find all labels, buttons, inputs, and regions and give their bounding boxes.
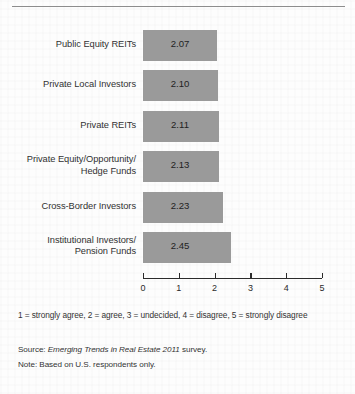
- category-label-line: Public Equity REITs: [8, 39, 136, 50]
- category-label: Cross-Border Investors: [8, 201, 136, 212]
- axis-tick-label: 2: [205, 283, 225, 293]
- source-suffix: survey.: [180, 345, 207, 354]
- category-label: Private Local Investors: [8, 79, 136, 90]
- chart-row: Cross-Border Investors2.23: [0, 192, 355, 223]
- bar-value-label: 2.13: [143, 159, 217, 170]
- category-label-line: Private REITs: [8, 120, 136, 131]
- chart-row: Public Equity REITs2.07: [0, 30, 355, 61]
- category-label-line: Hedge Funds: [8, 166, 136, 177]
- category-label: Public Equity REITs: [8, 39, 136, 50]
- axis-tick-label: 1: [169, 283, 189, 293]
- chart-row: Private REITs2.11: [0, 111, 355, 142]
- bar-value-label: 2.10: [143, 78, 217, 89]
- chart-row: Institutional Investors/Pension Funds2.4…: [0, 232, 355, 263]
- axis-tick-mark: [215, 273, 216, 278]
- axis-tick-label: 5: [312, 283, 332, 293]
- axis-tick-label: 0: [133, 283, 153, 293]
- chart-row: Private Equity/Opportunity/Hedge Funds2.…: [0, 151, 355, 182]
- axis-tick-mark: [250, 273, 251, 278]
- chart-figure: Public Equity REITs2.07Private Local Inv…: [0, 0, 355, 394]
- axis-tick-mark: [143, 273, 144, 278]
- axis-tick-label: 4: [276, 283, 296, 293]
- axis-tick-mark: [179, 273, 180, 278]
- bar-value-label: 2.45: [143, 240, 217, 251]
- category-label-line: Private Local Investors: [8, 79, 136, 90]
- category-label-line: Private Equity/Opportunity/: [8, 154, 136, 165]
- respondents-note: Note: Based on U.S. respondents only.: [18, 360, 155, 369]
- source-title: Emerging Trends in Real Estate 2011: [48, 345, 180, 354]
- axis-tick-mark: [286, 273, 287, 278]
- bar-value-label: 2.23: [143, 200, 217, 211]
- category-label: Private Equity/Opportunity/Hedge Funds: [8, 154, 136, 177]
- category-label-line: Institutional Investors/: [8, 235, 136, 246]
- source-line: Source: Emerging Trends in Real Estate 2…: [18, 345, 207, 354]
- bar-value-label: 2.07: [143, 38, 217, 49]
- axis-tick-mark: [322, 273, 323, 278]
- x-axis-line: [143, 278, 322, 279]
- category-label: Institutional Investors/Pension Funds: [8, 235, 136, 258]
- source-prefix: Source:: [18, 345, 48, 354]
- plot-area: Public Equity REITs2.07Private Local Inv…: [0, 0, 355, 300]
- axis-tick-label: 3: [240, 283, 260, 293]
- bar-value-label: 2.11: [143, 119, 217, 130]
- category-label: Private REITs: [8, 120, 136, 131]
- chart-row: Private Local Investors2.10: [0, 70, 355, 101]
- category-label-line: Cross-Border Investors: [8, 201, 136, 212]
- category-label-line: Pension Funds: [8, 246, 136, 257]
- scale-legend-note: 1 = strongly agree, 2 = agree, 3 = undec…: [18, 310, 307, 320]
